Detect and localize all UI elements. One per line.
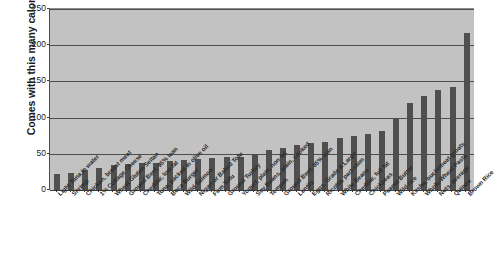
y-axis-tick-label: 150 (22, 75, 46, 85)
x-axis-label-slot: Quinoa (449, 191, 455, 273)
x-axis-label-slot: Tuna, packed in olive oil (152, 191, 158, 273)
x-axis-label-slot: Chickpeas (364, 191, 370, 273)
x-axis-label-slot: Chicken, breast meat (81, 191, 87, 273)
x-axis-label-slot: Cheddar, low fat (138, 191, 144, 273)
x-axis-label-slot: Boca Burger (166, 191, 172, 273)
y-axis-tick-label: 200 (22, 39, 46, 49)
x-axis-label-slot: Eggs, Grade A Large (307, 191, 313, 273)
x-axis-label-slot: Peanut Butter (378, 191, 384, 273)
x-axis-label-slot: Yogurt, plain, non-fat (237, 191, 243, 273)
x-axis-label-slot: Tempeh (265, 191, 271, 273)
y-axis-tick-label: 0 (22, 184, 46, 194)
y-axis-tick-labels: 050100150200250 (22, 0, 46, 273)
x-axis-tick-labels: Light Tuna in waterShrimpChicken, breast… (49, 191, 473, 273)
x-axis-label-slot: Shrimp (67, 191, 73, 273)
x-axis-label-slot: Ricotta, part-skim (321, 191, 327, 273)
x-axis-label-slot: Nuts, average (434, 191, 440, 273)
x-axis-label-slot: Brown Rice (463, 191, 469, 273)
x-axis-label-slot: Wild rice (392, 191, 398, 273)
x-axis-label-slot: Ground Turkey (223, 191, 229, 273)
x-axis-label-slot: Ground Beef, 85% lean (279, 191, 285, 273)
x-axis-label-slot: Light Tuna in water (53, 191, 59, 273)
y-axis-tick-label: 100 (22, 112, 46, 122)
x-axis-label-slot: Soy Beans, plain, cooked (251, 191, 257, 273)
x-axis-label-slot: Nigari or Baked Tofu (194, 191, 200, 273)
x-axis-label-slot: Ground Beef, 95% lean (124, 191, 130, 273)
y-axis-tick-label: 50 (22, 148, 46, 158)
x-axis-label-slot: Cheddar, full fat (350, 191, 356, 273)
x-axis-label-slot: Wild Salmon (180, 191, 186, 273)
x-axis-label-slot: White Beans (336, 191, 342, 273)
y-axis-tick-label: 250 (22, 3, 46, 13)
x-axis-label-slot: Lentils (293, 191, 299, 273)
x-axis-label-slot: Whole-Wheat Pasta (420, 191, 426, 273)
x-axis-label-slot: Kasha, buckwheat groats (406, 191, 412, 273)
x-axis-label-slot: Wheat Gluten Seitan (110, 191, 116, 273)
x-axis-label-slot: Firm Tofu (208, 191, 214, 273)
x-axis-label-slot: 1% Cottage Cheese (95, 191, 101, 273)
